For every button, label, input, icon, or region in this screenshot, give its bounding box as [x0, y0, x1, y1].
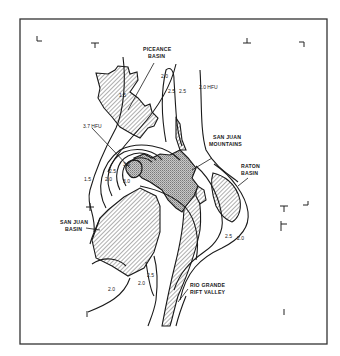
heat-flow-map-figure: PICEANCE BASIN SAN JUAN MOUNTAINS RATON …: [0, 0, 340, 356]
contour-label-2-5-west: 2.5: [109, 168, 116, 174]
contour-label-2-5-south: 2.5: [147, 272, 154, 278]
raton-basin-label-1: RATON: [241, 163, 260, 169]
contour-label-1-5-west: 1.5: [84, 176, 91, 182]
raton-basin-label-2: BASIN: [241, 170, 258, 176]
rio-grande-label-2: RIFT VALLEY: [190, 289, 226, 295]
contour-label-2-5-b: 2.5: [179, 88, 186, 94]
piceance-basin-label-1: PICEANCE: [143, 46, 172, 52]
contour-label-2-0-north: 2.0: [161, 73, 168, 79]
san-juan-basin-area: [92, 188, 160, 276]
contour-label-2-0-south: 2.0: [138, 280, 145, 286]
contour-label-3-5-core: 3.5: [123, 161, 130, 167]
san-juan-basin-label-2: BASIN: [65, 226, 82, 232]
contour-label-1-5-north: 1.5: [119, 92, 126, 98]
map-canvas: PICEANCE BASIN SAN JUAN MOUNTAINS RATON …: [0, 0, 340, 356]
contour-label-peak: 3.7 HFU: [83, 123, 102, 129]
contour-label-2-5-a: 2.5: [168, 88, 175, 94]
piceance-basin-label-2: BASIN: [148, 53, 165, 59]
contour-label-2-5-raton: 2.5: [225, 233, 232, 239]
piceance-basin-area: [96, 66, 158, 138]
san-juan-basin-label-1: SAN JUAN: [60, 219, 88, 225]
san-juan-mountains-label-2: MOUNTAINS: [209, 141, 242, 147]
contour-label-2-0-sw: 2.0: [108, 286, 115, 292]
rio-grande-label-1: RIO GRANDE: [190, 282, 225, 288]
san-juan-mountains-label-1: SAN JUAN: [213, 134, 241, 140]
contour-label-3-0-west: 3.0: [123, 178, 130, 184]
contour-label-2-0-raton: 2.0: [237, 235, 244, 241]
contour-label-2-0-west: 2.0: [105, 176, 112, 182]
contour-label-east: 2.0 HFU: [199, 84, 218, 90]
